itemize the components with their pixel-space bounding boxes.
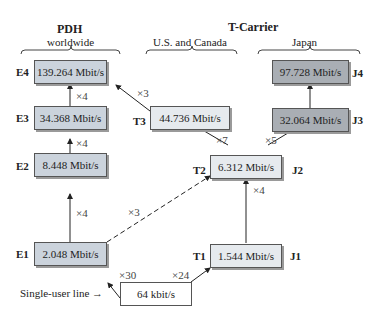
us-canada-subtitle: U.S. and Canada	[153, 36, 227, 48]
single-user-line-label: Single-user line →	[20, 287, 103, 299]
t1-label: T1	[193, 250, 206, 262]
mult-e3-e4: ×4	[76, 90, 88, 102]
t2-rate: 6.312 Mbit/s	[218, 161, 274, 173]
e1-rate: 2.048 Mbit/s	[42, 248, 98, 260]
mult-e2-e3: ×4	[76, 137, 88, 149]
j3-box: 32.064 Mbit/s	[272, 108, 349, 132]
tcarrier-title: T-Carrier	[228, 20, 278, 35]
e4-rate: 139.264 Mbit/s	[37, 66, 104, 78]
t3-label: T3	[133, 115, 146, 127]
mult-t2-t3: ×7	[216, 134, 228, 146]
base-rate: 64 kbit/s	[137, 288, 175, 300]
j2-label: J2	[292, 164, 303, 176]
mult-base-e1: ×30	[119, 269, 136, 281]
pdh-title: PDH	[57, 22, 82, 37]
e4-label: E4	[16, 66, 29, 78]
mult-t3-e4: ×3	[137, 87, 149, 99]
e2-label: E2	[16, 160, 29, 172]
e2-box: 8.448 Mbit/s	[34, 153, 107, 177]
j4-rate: 97.728 Mbit/s	[280, 66, 342, 78]
t2-box: 6.312 Mbit/s	[210, 155, 282, 179]
e1-box: 2.048 Mbit/s	[34, 242, 107, 266]
mult-t1-t2: ×4	[253, 184, 265, 196]
j4-label: J4	[352, 67, 363, 79]
e4-box: 139.264 Mbit/s	[34, 60, 107, 84]
j1-label: J1	[290, 250, 301, 262]
j3-rate: 32.064 Mbit/s	[280, 114, 342, 126]
e1-label: E1	[16, 248, 29, 260]
mult-e1-t2: ×3	[128, 206, 140, 218]
j4-box: 97.728 Mbit/s	[272, 60, 349, 84]
t3-box: 44.736 Mbit/s	[150, 106, 230, 130]
t2-label: T2	[193, 164, 206, 176]
pdh-subtitle: worldwide	[47, 36, 94, 48]
mult-base-t1: ×24	[172, 269, 189, 281]
base-64k-box: 64 kbit/s	[120, 282, 192, 306]
e2-rate: 8.448 Mbit/s	[42, 159, 98, 171]
japan-subtitle: Japan	[292, 36, 317, 48]
e3-label: E3	[16, 112, 29, 124]
mult-t2-j3: ×5	[265, 134, 277, 146]
j3-label: J3	[352, 114, 363, 126]
e3-rate: 34.368 Mbit/s	[40, 112, 102, 124]
t3-rate: 44.736 Mbit/s	[159, 112, 221, 124]
mult-e1-e2: ×4	[76, 207, 88, 219]
e3-box: 34.368 Mbit/s	[34, 106, 107, 130]
t1-box: 1.544 Mbit/s	[210, 244, 282, 268]
t1-rate: 1.544 Mbit/s	[218, 250, 274, 262]
